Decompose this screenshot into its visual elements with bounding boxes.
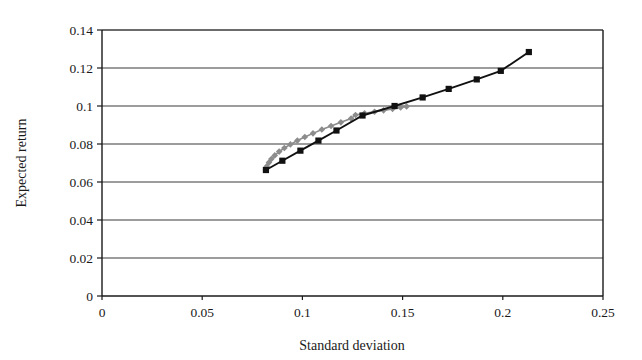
data-point-square [315, 137, 321, 143]
y-tick-label: 0 [86, 289, 93, 304]
data-point-square [359, 112, 365, 118]
x-tick-label: 0.2 [494, 305, 511, 320]
data-point-square [279, 158, 285, 164]
chart-figure: 00.050.10.150.20.25 00.020.040.060.080.1… [0, 0, 642, 360]
y-tick-label: 0.06 [69, 175, 93, 190]
x-tick-label: 0.1 [294, 305, 311, 320]
x-tick-label: 0.25 [591, 305, 615, 320]
data-point-square [263, 167, 269, 173]
x-tick-label: 0.15 [391, 305, 415, 320]
data-point-square [420, 94, 426, 100]
data-point-square [526, 49, 532, 55]
y-tick-label: 0.1 [76, 99, 93, 114]
x-axis-title: Standard deviation [299, 338, 404, 353]
data-point-square [333, 127, 339, 133]
x-tick-label: 0 [99, 305, 106, 320]
y-tick-label: 0.04 [69, 213, 93, 228]
y-axis-title: Expected return [14, 118, 29, 207]
data-point-square [391, 103, 397, 109]
chart-background [0, 0, 642, 360]
data-point-square [297, 148, 303, 154]
y-tick-label: 0.14 [69, 23, 93, 38]
data-point-square [474, 76, 480, 82]
y-tick-label: 0.08 [69, 137, 93, 152]
efficient-frontier-chart: 00.050.10.150.20.25 00.020.040.060.080.1… [0, 0, 642, 360]
y-tick-label: 0.12 [69, 61, 93, 76]
x-tick-label: 0.05 [190, 305, 214, 320]
data-point-square [498, 68, 504, 74]
y-tick-label: 0.02 [69, 251, 93, 266]
data-point-square [446, 86, 452, 92]
